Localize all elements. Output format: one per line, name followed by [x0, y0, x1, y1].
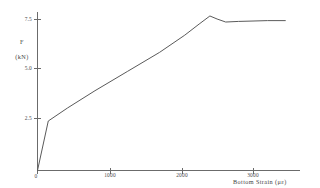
- load-strain-curve: [38, 16, 286, 171]
- chart-plot-area: 7.5 5.0 2.5 0 1000 2000 3000 F (kN) Bott…: [0, 0, 320, 188]
- x-tick-label-0: 0: [35, 173, 38, 179]
- x-tick-label-1000: 1000: [104, 172, 116, 178]
- x-axis-title: Bottom Strain (με): [233, 178, 287, 186]
- y-axis-title-symbol: F: [20, 38, 24, 45]
- y-axis-title-unit: (kN): [15, 53, 28, 61]
- y-tick-label-5_0: 5.0: [25, 65, 32, 71]
- chart-figure: 7.5 5.0 2.5 0 1000 2000 3000 F (kN) Bott…: [0, 0, 320, 188]
- y-tick-label-2_5: 2.5: [25, 115, 32, 121]
- x-tick-label-2000: 2000: [176, 172, 188, 178]
- y-tick-label-7_5: 7.5: [25, 16, 32, 22]
